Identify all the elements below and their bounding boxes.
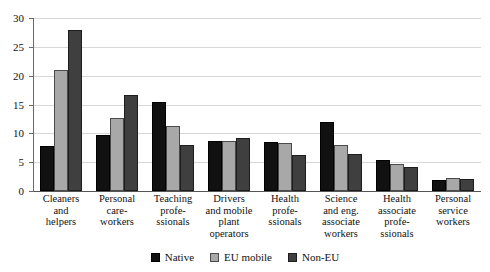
x-axis-label-line: profe-	[146, 205, 200, 217]
x-axis-label-line: ssionals	[370, 228, 424, 240]
x-axis-label-line: profe-	[258, 205, 312, 217]
y-axis-tick: 20	[29, 76, 34, 77]
y-axis-tick-label: 0	[19, 186, 25, 197]
x-axis-label: Personalcare-workers	[89, 193, 145, 239]
legend: NativeEU mobileNon-EU	[0, 252, 490, 263]
bar	[180, 145, 194, 191]
x-axis-label-line: Personal	[426, 193, 480, 205]
bar	[348, 154, 362, 191]
bar-group	[201, 18, 257, 191]
y-axis-tick: 30	[29, 18, 34, 19]
bar	[390, 164, 404, 191]
bar-group	[425, 18, 481, 191]
y-axis-tick: 15	[29, 105, 34, 106]
x-axis-label-line: Science	[314, 193, 368, 205]
x-axis-label: Personalserviceworkers	[425, 193, 481, 239]
bar-group	[369, 18, 425, 191]
x-axis-label-line: plant	[202, 216, 256, 228]
bar	[334, 145, 348, 191]
bar	[432, 180, 446, 191]
x-axis-label-line: Drivers	[202, 193, 256, 205]
legend-label: Native	[165, 252, 194, 263]
x-axis-label-line: ssionals	[146, 216, 200, 228]
x-axis-label-line: associate	[370, 205, 424, 217]
bar	[460, 179, 474, 191]
x-axis-label-line: Health	[370, 193, 424, 205]
y-axis-tick-label: 25	[13, 41, 24, 52]
bar	[68, 30, 82, 191]
bar	[152, 102, 166, 191]
y-axis-tick-label: 15	[13, 99, 24, 110]
x-axis-label-line: and eng.	[314, 205, 368, 217]
bar	[376, 160, 390, 191]
bar	[40, 146, 54, 191]
x-axis-label-line: Personal	[90, 193, 144, 205]
x-axis-label: Healthprofe-ssionals	[257, 193, 313, 239]
legend-item: Native	[151, 252, 194, 263]
bar	[236, 138, 250, 191]
bar	[166, 126, 180, 191]
y-axis-tick-label: 30	[13, 13, 24, 24]
y-axis-tick: 5	[29, 162, 34, 163]
x-axis-label: Teachingprofe-ssionals	[145, 193, 201, 239]
y-axis-tick: 10	[29, 133, 34, 134]
x-axis-label-line: helpers	[34, 216, 88, 228]
legend-swatch-icon	[288, 253, 297, 262]
x-axis-label-line: ssionals	[258, 216, 312, 228]
y-axis: 051015202530	[33, 18, 34, 191]
bar	[404, 167, 418, 191]
bar	[320, 122, 334, 191]
x-axis-label: Driversand mobileplantoperators	[201, 193, 257, 239]
legend-swatch-icon	[151, 253, 160, 262]
x-axis-label-line: care-	[90, 205, 144, 217]
x-axis-label-line: service	[426, 205, 480, 217]
y-axis-tick-label: 5	[19, 157, 25, 168]
bar	[292, 155, 306, 191]
x-axis-label-line: workers	[90, 216, 144, 228]
bar	[264, 142, 278, 191]
x-axis-label-line: workers	[314, 228, 368, 240]
x-axis-label-line: profe-	[370, 216, 424, 228]
x-axis-label-line: Cleaners	[34, 193, 88, 205]
bar	[110, 118, 124, 191]
bar-group	[257, 18, 313, 191]
bar	[446, 178, 460, 191]
x-axis-labels: CleanersandhelpersPersonalcare-workersTe…	[33, 193, 481, 239]
plot-area	[33, 18, 481, 191]
x-axis-label-line: Teaching	[146, 193, 200, 205]
bar	[54, 70, 68, 191]
x-axis-label-line: operators	[202, 228, 256, 240]
legend-item: EU mobile	[210, 252, 272, 263]
y-axis-tick: 25	[29, 47, 34, 48]
x-axis-label-line: and	[34, 205, 88, 217]
bar	[96, 135, 110, 192]
legend-swatch-icon	[210, 253, 219, 262]
x-axis-label: Healthassociateprofe-ssionals	[369, 193, 425, 239]
bar	[222, 141, 236, 191]
bar-group	[89, 18, 145, 191]
gridline	[33, 191, 481, 192]
bar-group	[313, 18, 369, 191]
bar	[208, 141, 222, 191]
x-axis-label-line: Health	[258, 193, 312, 205]
legend-label: Non-EU	[302, 252, 339, 263]
x-axis-label-line: associate	[314, 216, 368, 228]
legend-item: Non-EU	[288, 252, 339, 263]
legend-label: EU mobile	[224, 252, 272, 263]
bar-groups	[33, 18, 481, 191]
x-axis-label: Scienceand eng.associateworkers	[313, 193, 369, 239]
x-axis-label-line: workers	[426, 216, 480, 228]
y-axis-tick-label: 20	[13, 70, 24, 81]
bar-group	[145, 18, 201, 191]
bar	[124, 95, 138, 191]
y-axis-tick-label: 10	[13, 128, 24, 139]
y-axis-tick: 0	[29, 191, 34, 192]
bar-chart: 051015202530 CleanersandhelpersPersonalc…	[0, 0, 490, 272]
x-axis-label: Cleanersandhelpers	[33, 193, 89, 239]
x-axis-label-line: and mobile	[202, 205, 256, 217]
bar-group	[33, 18, 89, 191]
bar	[278, 143, 292, 191]
